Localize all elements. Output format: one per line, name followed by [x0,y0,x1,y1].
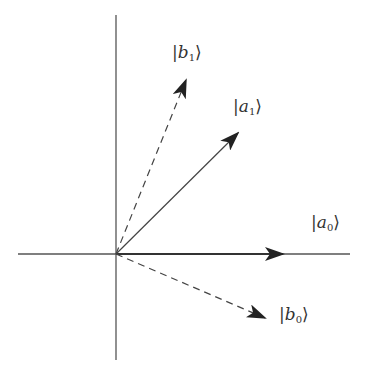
ket-angle: ⟩ [195,42,202,62]
label-a1: |a1⟩ [233,98,262,117]
ket-base: a [317,212,327,232]
ket-base: a [239,96,249,116]
ket-angle: ⟩ [333,212,340,232]
ket-angle: ⟩ [302,304,309,324]
ket-base: b [285,304,296,324]
label-b1: |b1⟩ [172,44,202,63]
label-a0: |a0⟩ [311,214,340,233]
vector-b0 [116,254,265,318]
ket-angle: ⟩ [255,96,262,116]
vector-a1 [116,133,238,254]
ket-base: b [178,42,189,62]
vector-b1 [116,80,186,254]
label-b0: |b0⟩ [279,306,309,325]
